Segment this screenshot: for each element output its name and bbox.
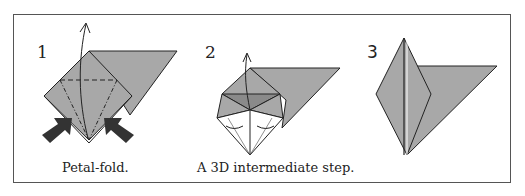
step-1-caption: Petal-fold. [62,160,129,175]
step-1-figure [42,23,177,143]
step-3-number: 3 [367,42,378,62]
step-3-figure [376,38,497,155]
step-1-number: 1 [37,42,48,62]
step-2-number: 2 [205,42,216,62]
step-2-caption: A 3D intermediate step. [197,160,354,175]
step-2-figure [217,53,340,155]
push-arrow-right-icon [104,118,134,143]
push-arrow-left-icon [42,118,72,143]
